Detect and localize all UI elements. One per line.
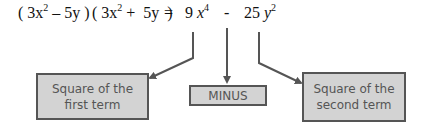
- arrow-second-term: [259, 32, 301, 83]
- label-minus: MINUS: [208, 88, 247, 104]
- label-second-term: Square of the second term: [310, 81, 398, 113]
- label-box-first-term: Square of the first term: [36, 73, 149, 120]
- label-box-second-term: Square of the second term: [302, 72, 406, 122]
- label-first-term: Square of the first term: [48, 81, 138, 113]
- arrow-first-term: [150, 32, 193, 78]
- label-box-minus: MINUS: [189, 85, 267, 106]
